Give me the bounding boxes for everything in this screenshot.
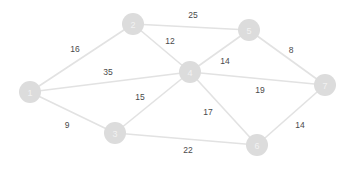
edge-weight-3-6: 22 — [183, 145, 193, 155]
graph-node-label-6: 6 — [254, 141, 259, 151]
edge-weight-6-7: 14 — [295, 120, 305, 130]
edge-weight-1-3: 9 — [65, 120, 70, 130]
edges-layer — [30, 24, 325, 145]
graph-edge-2-5 — [133, 24, 249, 30]
graph-node-5[interactable]: 5 — [238, 19, 260, 41]
edge-weight-3-4: 15 — [135, 92, 145, 102]
graph-node-label-2: 2 — [130, 20, 135, 30]
graph-edge-2-4 — [133, 24, 190, 72]
graph-edge-1-3 — [30, 92, 115, 133]
graph-node-label-1: 1 — [27, 88, 32, 98]
graph-node-4[interactable]: 4 — [179, 61, 201, 83]
graph-edge-3-4 — [115, 72, 190, 133]
graph-edge-4-6 — [190, 72, 257, 145]
graph-node-6[interactable]: 6 — [246, 134, 268, 156]
edge-weight-1-4: 35 — [103, 67, 113, 77]
graph-node-3[interactable]: 3 — [104, 122, 126, 144]
graph-edge-4-7 — [190, 72, 325, 85]
edge-weight-1-2: 16 — [70, 44, 80, 54]
graph-node-label-4: 4 — [187, 68, 192, 78]
graph-node-label-5: 5 — [246, 26, 251, 36]
edge-weight-4-6: 17 — [203, 107, 213, 117]
graph-edge-5-7 — [249, 30, 325, 85]
graph-edge-3-6 — [115, 133, 257, 145]
graph-node-label-7: 7 — [322, 81, 327, 91]
edge-weight-4-5: 14 — [220, 56, 230, 66]
graph-node-label-3: 3 — [112, 129, 117, 139]
graph-node-7[interactable]: 7 — [314, 74, 336, 96]
graph-node-2[interactable]: 2 — [122, 13, 144, 35]
edge-weight-2-5: 25 — [188, 10, 198, 20]
nodes-layer: 1234567 — [19, 13, 336, 156]
graph-edge-6-7 — [257, 85, 325, 145]
edge-weight-4-7: 19 — [255, 85, 265, 95]
edge-weight-5-7: 8 — [289, 45, 294, 55]
edge-weight-2-4: 12 — [165, 36, 175, 46]
graph-diagram: 1234567 1635925121522141917814 — [0, 0, 349, 169]
graph-canvas-svg: 1234567 1635925121522141917814 — [0, 0, 349, 169]
graph-node-1[interactable]: 1 — [19, 81, 41, 103]
